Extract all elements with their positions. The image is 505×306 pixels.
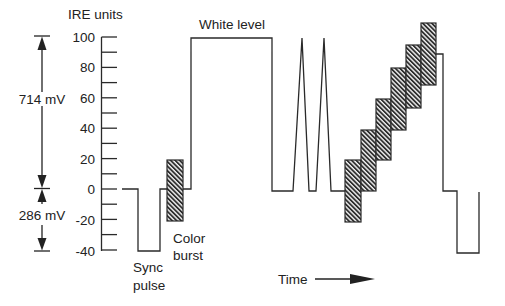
time-label: Time bbox=[278, 272, 308, 287]
label-286mv: 286 mV bbox=[19, 208, 66, 223]
staircase-step-1 bbox=[345, 160, 361, 222]
tick-label-100: 100 bbox=[72, 30, 95, 45]
color-burst-label-line1: Color bbox=[173, 231, 206, 246]
staircase-step-4 bbox=[391, 68, 406, 130]
tick-label-60: 60 bbox=[80, 91, 95, 106]
waveform-trace-end bbox=[436, 54, 479, 253]
staircase-step-5 bbox=[406, 45, 421, 108]
tick-label-neg20: -20 bbox=[75, 213, 95, 228]
staircase-step-3 bbox=[376, 99, 391, 160]
sync-pulse-label-line1: Sync bbox=[133, 260, 163, 275]
waveform-trace bbox=[122, 38, 345, 251]
video-waveform-diagram: IRE units 100 80 60 40 20 0 -20 -40 bbox=[0, 0, 505, 306]
y-axis bbox=[102, 37, 118, 251]
color-burst-label-line2: burst bbox=[173, 248, 203, 263]
y-axis-label: IRE units bbox=[68, 7, 123, 22]
sync-pulse-label-line2: pulse bbox=[133, 278, 165, 293]
y-axis-tick-labels: 100 80 60 40 20 0 -20 -40 bbox=[72, 30, 95, 259]
tick-label-20: 20 bbox=[80, 152, 95, 167]
white-level-label: White level bbox=[199, 17, 265, 32]
staircase-step-2 bbox=[361, 130, 376, 191]
time-arrow-icon bbox=[315, 274, 375, 284]
tick-label-80: 80 bbox=[80, 60, 95, 75]
modulated-staircase bbox=[345, 23, 436, 222]
tick-label-neg40: -40 bbox=[75, 244, 95, 259]
tick-label-40: 40 bbox=[80, 121, 95, 136]
color-burst-block bbox=[167, 160, 183, 221]
tick-label-0: 0 bbox=[87, 182, 95, 197]
staircase-step-6 bbox=[421, 23, 436, 85]
label-714mv: 714 mV bbox=[19, 92, 66, 107]
